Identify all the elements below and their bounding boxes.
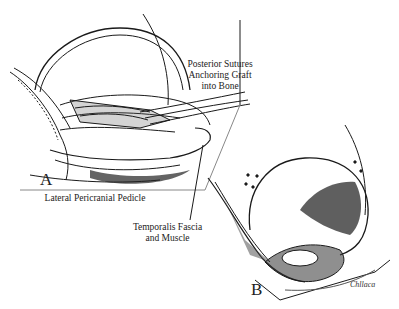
panel-b-drawing bbox=[208, 125, 390, 300]
panel-letter-b: B bbox=[251, 280, 262, 300]
label-lateral-pericranial-pedicle: Lateral Pericranial Pedicle bbox=[35, 193, 155, 204]
label-temporalis-fascia: Temporalis Fascia and Muscle bbox=[120, 222, 215, 244]
label-posterior-sutures: Posterior Sutures Anchoring Graft into B… bbox=[170, 59, 270, 92]
medical-illustration: Posterior Sutures Anchoring Graft into B… bbox=[0, 0, 399, 309]
artist-signature: Chllaca bbox=[350, 280, 375, 289]
illustration-drawing bbox=[0, 0, 399, 309]
panel-letter-a: A bbox=[40, 170, 52, 190]
